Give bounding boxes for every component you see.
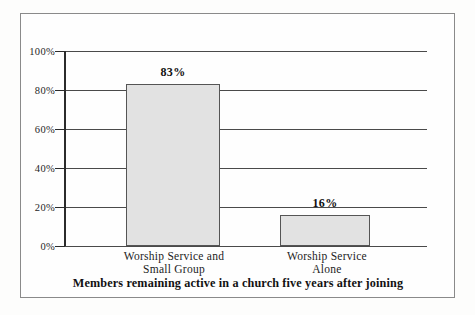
x-category-label-line-2: Alone xyxy=(256,263,398,276)
gridline-0 xyxy=(65,246,427,247)
y-tick-label-20: 20% xyxy=(7,202,55,213)
y-tick-label-0: 0% xyxy=(7,241,55,252)
gridline-20 xyxy=(65,207,427,208)
y-tick-40 xyxy=(55,168,65,169)
plot-area: 100% 80% 60% 40% 20% 0% 83% 16% Worship … xyxy=(0,0,475,315)
y-tick-0 xyxy=(55,246,65,247)
y-axis-line xyxy=(64,51,66,246)
y-tick-label-60: 60% xyxy=(7,124,55,135)
y-tick-80 xyxy=(55,90,65,91)
y-tick-label-100: 100% xyxy=(7,46,55,57)
x-category-label-worship-service-and-small-group: Worship Service and Small Group xyxy=(88,250,260,276)
gridline-80 xyxy=(65,90,427,91)
x-category-label-line-2: Small Group xyxy=(88,263,260,276)
chart-figure: 100% 80% 60% 40% 20% 0% 83% 16% Worship … xyxy=(0,0,475,315)
gridline-40 xyxy=(65,168,427,169)
x-category-label-line-1: Worship Service xyxy=(256,250,398,263)
gridline-60 xyxy=(65,129,427,130)
y-tick-label-40: 40% xyxy=(7,163,55,174)
y-tick-20 xyxy=(55,207,65,208)
bar-worship-service-and-small-group[interactable] xyxy=(126,84,220,246)
bar-worship-service-alone[interactable] xyxy=(280,215,370,246)
y-tick-100 xyxy=(55,51,65,52)
y-tick-label-80: 80% xyxy=(7,85,55,96)
gridline-100 xyxy=(65,51,427,52)
y-tick-60 xyxy=(55,129,65,130)
x-category-label-line-1: Worship Service and xyxy=(88,250,260,263)
chart-caption: Members remaining active in a church fiv… xyxy=(26,276,450,291)
x-category-label-worship-service-alone: Worship Service Alone xyxy=(256,250,398,276)
bar-value-label-worship-service-and-small-group: 83% xyxy=(126,65,220,80)
bar-value-label-worship-service-alone: 16% xyxy=(280,196,370,211)
